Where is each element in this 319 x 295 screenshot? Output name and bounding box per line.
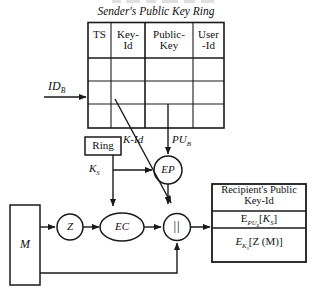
concat-node-label: || [163, 219, 191, 232]
message-box-label: M [10, 238, 40, 250]
ec-node-label: EC [100, 221, 144, 232]
pu-b-label: PUB [172, 134, 191, 148]
id-b-label: IDB [48, 80, 65, 95]
table-header-ts: TS [88, 29, 111, 40]
ring-box-label: Ring [85, 140, 121, 151]
z-node-label: Z [56, 221, 84, 232]
k-id-label: K-Id [123, 134, 143, 145]
ep-node-label: EP [154, 164, 182, 175]
cropped-text-artifact [112, 0, 214, 3]
m-bypass-edge [40, 243, 177, 273]
pgp-message-generation-diagram: Sender's Public Key Ring TS Key- Id Publ… [0, 0, 319, 295]
table-header-public-key: Public- Key [145, 29, 193, 51]
output-row-encrypted-message: EKS[Z (M)] [212, 236, 306, 252]
ks-label: KS [89, 163, 100, 177]
output-row-session-key: EPUB[KS] [212, 213, 306, 229]
table-header-user-id: User -Id [193, 29, 224, 51]
output-box-header: Recipient's Public Key-Id [212, 184, 306, 207]
diagram-title: Sender's Public Key Ring [83, 6, 229, 18]
table-header-key-id: Key- Id [111, 29, 145, 51]
k-id-edge [115, 99, 171, 203]
